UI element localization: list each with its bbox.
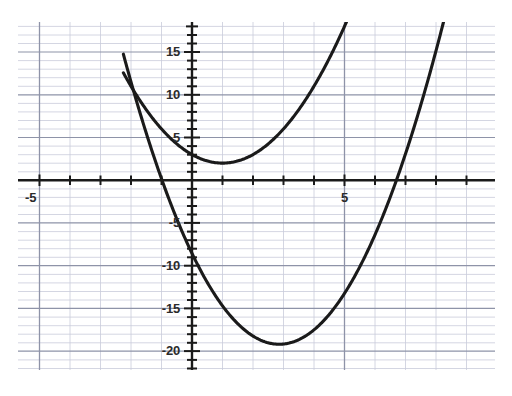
graph-canvas [0, 0, 512, 396]
plot-background [18, 22, 495, 370]
minor-gridlines-horizontal [18, 26, 495, 368]
graph-figure: -5 5 15 10 5 -5 -10 -15 -20 [0, 0, 512, 396]
y-tick-label-neg20: -20 [146, 343, 180, 358]
y-tick-label-neg10: -10 [146, 258, 180, 273]
y-tick-label-5: 5 [151, 130, 180, 145]
y-tick-label-neg15: -15 [146, 301, 180, 316]
y-tick-label-15: 15 [151, 44, 180, 59]
x-tick-label-neg5: -5 [25, 190, 36, 205]
x-tick-label-pos5: 5 [341, 190, 348, 205]
y-tick-label-neg5: -5 [151, 215, 180, 230]
y-tick-label-10: 10 [151, 87, 180, 102]
